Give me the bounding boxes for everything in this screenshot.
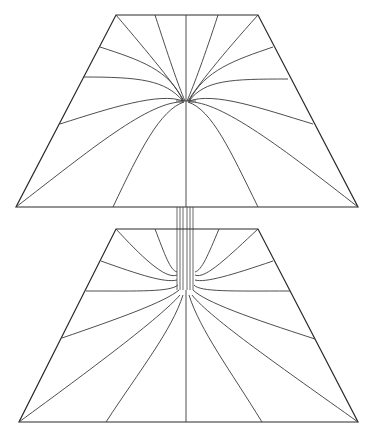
upper-panel-outline (16, 15, 358, 207)
field-lines-diagram (0, 0, 376, 440)
lower-panel (19, 229, 358, 422)
upper-panel (16, 15, 358, 207)
connector-bundle (177, 207, 193, 290)
lower-panel-outline (19, 229, 358, 422)
